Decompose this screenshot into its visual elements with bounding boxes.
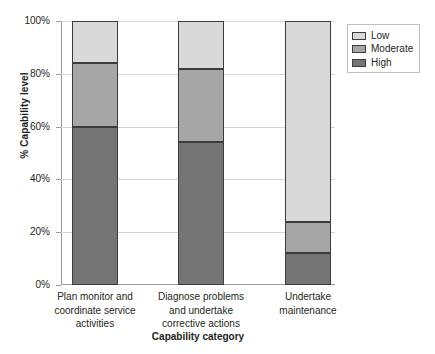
- y-tick-label-80: 80%: [6, 69, 50, 79]
- bar-segment-high[interactable]: [72, 127, 118, 285]
- y-tick-label-100: 100%: [6, 16, 50, 26]
- stacked-bar-chart: % Capability level 100% 80% 60% 40% 20% …: [0, 0, 435, 354]
- legend-label-moderate: Moderate: [371, 44, 413, 54]
- bar-segment-moderate[interactable]: [72, 63, 118, 126]
- legend-item-high[interactable]: High: [352, 56, 419, 70]
- x-label-line: Plan monitor and: [41, 290, 149, 304]
- bar-undertake-maintenance[interactable]: [285, 21, 331, 285]
- bar-segment-high[interactable]: [178, 142, 224, 285]
- x-label-diagnose-problems: Diagnose problems and undertake correcti…: [147, 290, 255, 331]
- legend-item-moderate[interactable]: Moderate: [352, 43, 419, 57]
- y-tick-mark-0: [56, 285, 61, 286]
- legend-swatch-high-icon: [352, 59, 366, 67]
- x-label-line: and undertake: [147, 304, 255, 318]
- legend-swatch-low-icon: [352, 32, 366, 40]
- legend-label-low: Low: [371, 31, 389, 41]
- legend-label-high: High: [371, 58, 392, 68]
- y-tick-label-60: 60%: [6, 122, 50, 132]
- x-axis-title: Capability category: [61, 331, 335, 342]
- y-tick-label-40: 40%: [6, 174, 50, 184]
- bar-segment-low[interactable]: [285, 21, 331, 222]
- y-tick-label-20: 20%: [6, 227, 50, 237]
- x-axis-category-labels: Plan monitor and coordinate service acti…: [61, 290, 335, 336]
- x-label-line: Diagnose problems: [147, 290, 255, 304]
- x-label-undertake-maintenance: Undertake maintenance: [254, 290, 362, 317]
- legend-swatch-moderate-icon: [352, 45, 366, 53]
- bar-segment-high[interactable]: [285, 253, 331, 285]
- legend-item-low[interactable]: Low: [352, 29, 419, 43]
- x-label-line: Undertake: [254, 290, 362, 304]
- bar-segment-low[interactable]: [178, 21, 224, 69]
- x-label-plan-monitor: Plan monitor and coordinate service acti…: [41, 290, 149, 331]
- x-label-line: activities: [41, 317, 149, 331]
- x-label-line: maintenance: [254, 304, 362, 318]
- x-label-line: coordinate service: [41, 304, 149, 318]
- bar-diagnose-problems[interactable]: [178, 21, 224, 285]
- bar-plan-monitor[interactable]: [72, 21, 118, 285]
- x-label-line: corrective actions: [147, 317, 255, 331]
- y-tick-label-0: 0%: [6, 280, 50, 290]
- plot-area: [61, 21, 335, 285]
- bar-segment-low[interactable]: [72, 21, 118, 63]
- chart-legend: Low Moderate High: [347, 24, 420, 73]
- bar-segment-moderate[interactable]: [178, 69, 224, 143]
- bar-segment-moderate[interactable]: [285, 222, 331, 254]
